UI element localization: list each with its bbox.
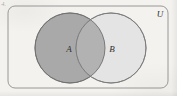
venn-canvas: A B U	[0, 0, 177, 96]
universal-set-label: U	[157, 9, 164, 19]
set-a-label: A	[65, 44, 72, 54]
set-b-label: B	[109, 44, 115, 54]
venn-diagram-figure: 4. A B U	[0, 0, 177, 96]
